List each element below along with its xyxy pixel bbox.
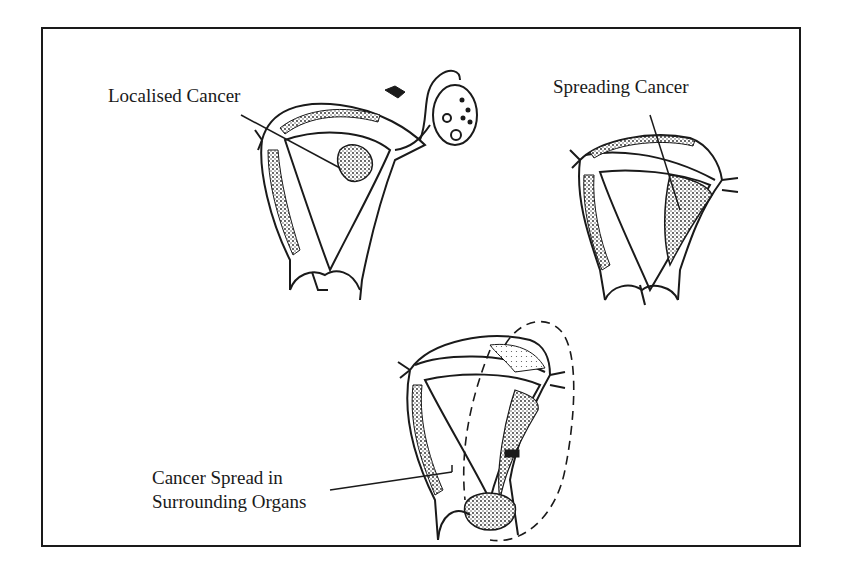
figure-spread-surrounding-organs: [330, 322, 574, 541]
label-cancer-spread-line1: Cancer Spread in: [152, 466, 283, 489]
figure-localised-cancer: [241, 71, 477, 300]
label-localised-cancer: Localised Cancer: [108, 84, 240, 107]
label-cancer-spread-line2: Surrounding Organs: [152, 490, 306, 513]
figure-spreading-cancer: [570, 115, 738, 305]
label-spreading-cancer: Spreading Cancer: [553, 75, 689, 98]
